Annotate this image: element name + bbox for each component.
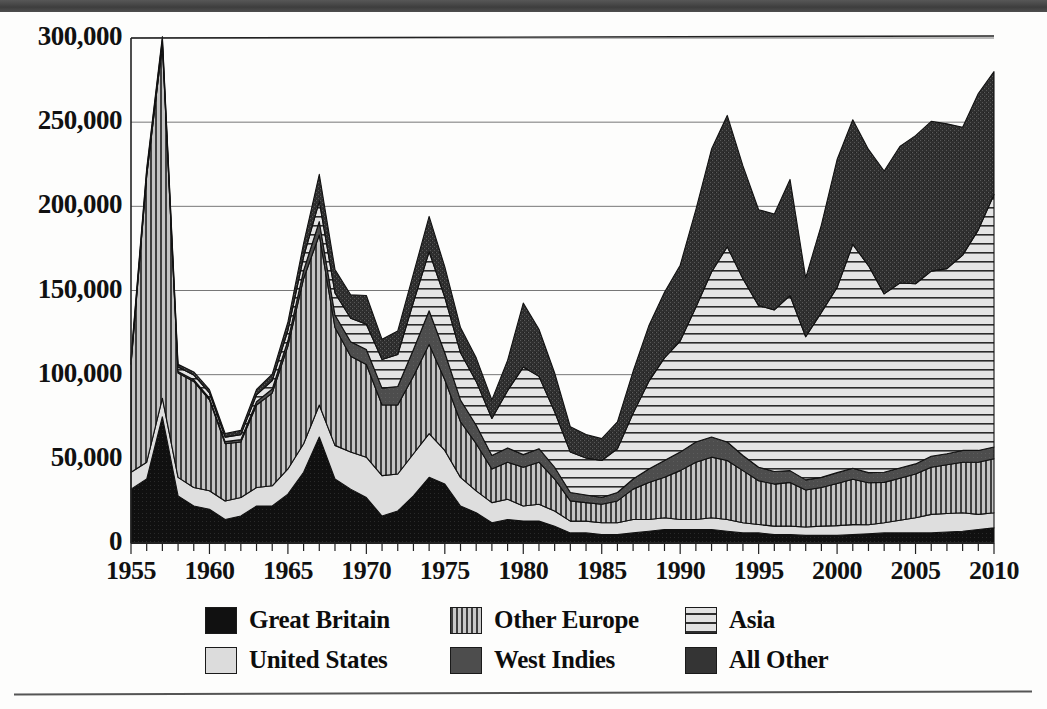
y-axis-label-200000: 200,000	[4, 189, 122, 220]
x-axis-label-2000: 2000	[792, 556, 882, 586]
footer-divider	[14, 690, 1032, 695]
legend-label: West Indies	[494, 646, 615, 674]
area-series-group	[131, 36, 994, 543]
x-axis-label-1995: 1995	[714, 556, 804, 586]
x-axis-label-1975: 1975	[400, 556, 490, 586]
legend-item-west-indies[interactable]: West Indies	[450, 644, 615, 676]
legend-swatch-icon	[205, 647, 237, 674]
legend-label: Asia	[729, 606, 775, 634]
x-axis-label-1970: 1970	[321, 556, 411, 586]
x-axis-label-2010: 2010	[949, 556, 1039, 586]
legend-swatch-icon	[450, 647, 482, 674]
legend-swatch-icon	[205, 607, 237, 634]
y-axis-label-250000: 250,000	[4, 105, 122, 136]
chart-legend: Great BritainUnited StatesOther EuropeWe…	[205, 604, 845, 680]
legend-item-united-states[interactable]: United States	[205, 644, 387, 676]
x-axis-label-1960: 1960	[164, 556, 254, 586]
legend-swatch-icon	[450, 607, 482, 634]
chart-plot-area: 050,000100,000150,000200,000250,000300,0…	[0, 0, 1047, 600]
x-axis-label-2005: 2005	[871, 556, 961, 586]
figure-canvas: 050,000100,000150,000200,000250,000300,0…	[0, 0, 1047, 709]
x-axis-ticks	[131, 543, 994, 554]
legend-item-all-other[interactable]: All Other	[685, 644, 828, 676]
stacked-area-chart	[0, 0, 1047, 600]
legend-swatch-icon	[685, 647, 717, 674]
y-axis-label-0: 0	[4, 526, 122, 557]
y-axis-label-150000: 150,000	[4, 274, 122, 305]
legend-label: United States	[249, 646, 387, 674]
legend-item-great-britain[interactable]: Great Britain	[205, 604, 390, 636]
y-axis-label-300000: 300,000	[4, 21, 122, 52]
legend-item-other-europe[interactable]: Other Europe	[450, 604, 639, 636]
x-axis-label-1965: 1965	[243, 556, 333, 586]
legend-label: All Other	[729, 646, 828, 674]
legend-label: Great Britain	[249, 606, 390, 634]
x-axis-label-1985: 1985	[557, 556, 647, 586]
legend-swatch-icon	[685, 607, 717, 634]
y-axis-label-50000: 50,000	[4, 442, 122, 473]
x-axis-label-1955: 1955	[86, 556, 176, 586]
legend-label: Other Europe	[494, 606, 639, 634]
x-axis-label-1980: 1980	[478, 556, 568, 586]
legend-item-asia[interactable]: Asia	[685, 604, 775, 636]
y-axis-label-100000: 100,000	[4, 358, 122, 389]
x-axis-label-1990: 1990	[635, 556, 725, 586]
